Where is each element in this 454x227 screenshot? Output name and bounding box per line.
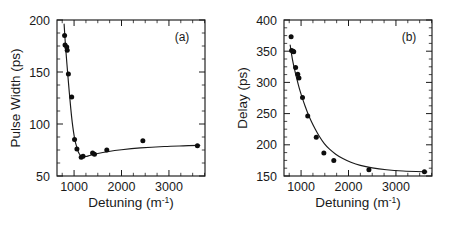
y-tick-label: 200: [29, 14, 50, 28]
data-point: [296, 76, 301, 81]
data-point: [66, 72, 71, 77]
data-point: [289, 34, 294, 39]
data-point: [195, 143, 200, 148]
y-tick-label: 200: [256, 138, 277, 152]
panel-b-y-tick-labels: 150200250300350400: [256, 14, 277, 184]
data-point: [69, 94, 74, 99]
panel-a-y-axis-label: Pulse Width (ps): [8, 48, 23, 147]
y-tick-label: 50: [36, 170, 50, 184]
data-point: [366, 167, 371, 172]
data-point: [65, 48, 70, 53]
y-tick-label: 300: [256, 76, 277, 90]
y-tick-label: 150: [256, 170, 277, 184]
panel-a-data-points: [62, 33, 200, 160]
data-point: [74, 146, 79, 151]
panel-b-fit-curve: [290, 45, 427, 172]
y-tick-label: 150: [29, 66, 50, 80]
data-point: [140, 138, 145, 143]
data-point: [72, 137, 77, 142]
data-point: [305, 114, 310, 119]
data-point: [314, 135, 319, 140]
panel-b-svg: 100020003000 150200250300350400 Delay (p…: [227, 0, 454, 227]
panel-a-x-axis-label: Detuning (m-1): [88, 195, 174, 210]
data-point: [422, 169, 427, 174]
figure-container: 100020003000 50100150200 Pulse Width (ps…: [0, 0, 454, 227]
panel-b-data-points: [289, 34, 427, 174]
panel-a-label: (a): [175, 30, 190, 44]
panel-b-x-axis-label: Detuning (m-1): [315, 195, 401, 210]
data-point: [293, 65, 298, 70]
panel-a-svg: 100020003000 50100150200 Pulse Width (ps…: [0, 0, 227, 227]
y-tick-label: 400: [256, 14, 277, 28]
y-tick-label: 250: [256, 107, 277, 121]
x-tick-label: 2000: [335, 180, 363, 194]
x-tick-label: 3000: [382, 180, 410, 194]
panel-b-x-tick-labels: 100020003000: [287, 180, 410, 194]
x-tick-label: 3000: [155, 180, 183, 194]
y-tick-label: 350: [256, 45, 277, 59]
data-point: [81, 154, 86, 159]
data-point: [104, 148, 109, 153]
data-point: [331, 158, 336, 163]
data-point: [291, 49, 296, 54]
y-tick-label: 100: [29, 118, 50, 132]
x-tick-label: 2000: [108, 180, 136, 194]
data-point: [321, 150, 326, 155]
panel-a-fit-curve: [64, 24, 200, 157]
panel-a-y-tick-labels: 50100150200: [29, 14, 50, 184]
x-tick-label: 1000: [60, 180, 88, 194]
data-point: [62, 33, 67, 38]
chart-panel-b: 100020003000 150200250300350400 Delay (p…: [227, 0, 454, 227]
data-point: [92, 152, 97, 157]
panel-b-label: (b): [402, 30, 417, 44]
chart-panel-a: 100020003000 50100150200 Pulse Width (ps…: [0, 0, 227, 227]
panel-a-x-tick-labels: 100020003000: [60, 180, 183, 194]
data-point: [300, 95, 305, 100]
x-tick-label: 1000: [287, 180, 315, 194]
panel-b-y-axis-label: Delay (ps): [235, 67, 250, 129]
